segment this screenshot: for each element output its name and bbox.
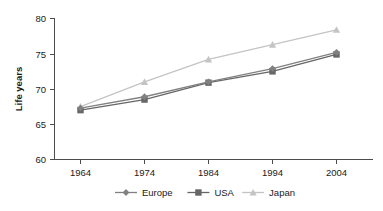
y-tick-label-75: 75 [35,49,46,60]
y-tick-label-80: 80 [35,13,46,24]
y-axis-title: Life years [13,67,24,111]
line-chart: 80 75 70 65 60 Life years 1964 1974 1984… [0,0,383,211]
x-tick-label-1994: 1994 [262,167,283,178]
y-tick-label-70: 70 [35,84,46,95]
x-tick-label-1964: 1964 [70,167,91,178]
x-tick-label-1974: 1974 [134,167,155,178]
legend-label-europe: Europe [142,187,173,198]
x-tick-label-1984: 1984 [198,167,219,178]
y-tick-label-65: 65 [35,119,46,130]
legend-marker-usa [195,189,201,195]
x-tick-label-2004: 2004 [326,167,347,178]
legend-label-japan: Japan [269,187,295,198]
y-tick-label-60: 60 [35,154,46,165]
legend-label-usa: USA [214,187,234,198]
